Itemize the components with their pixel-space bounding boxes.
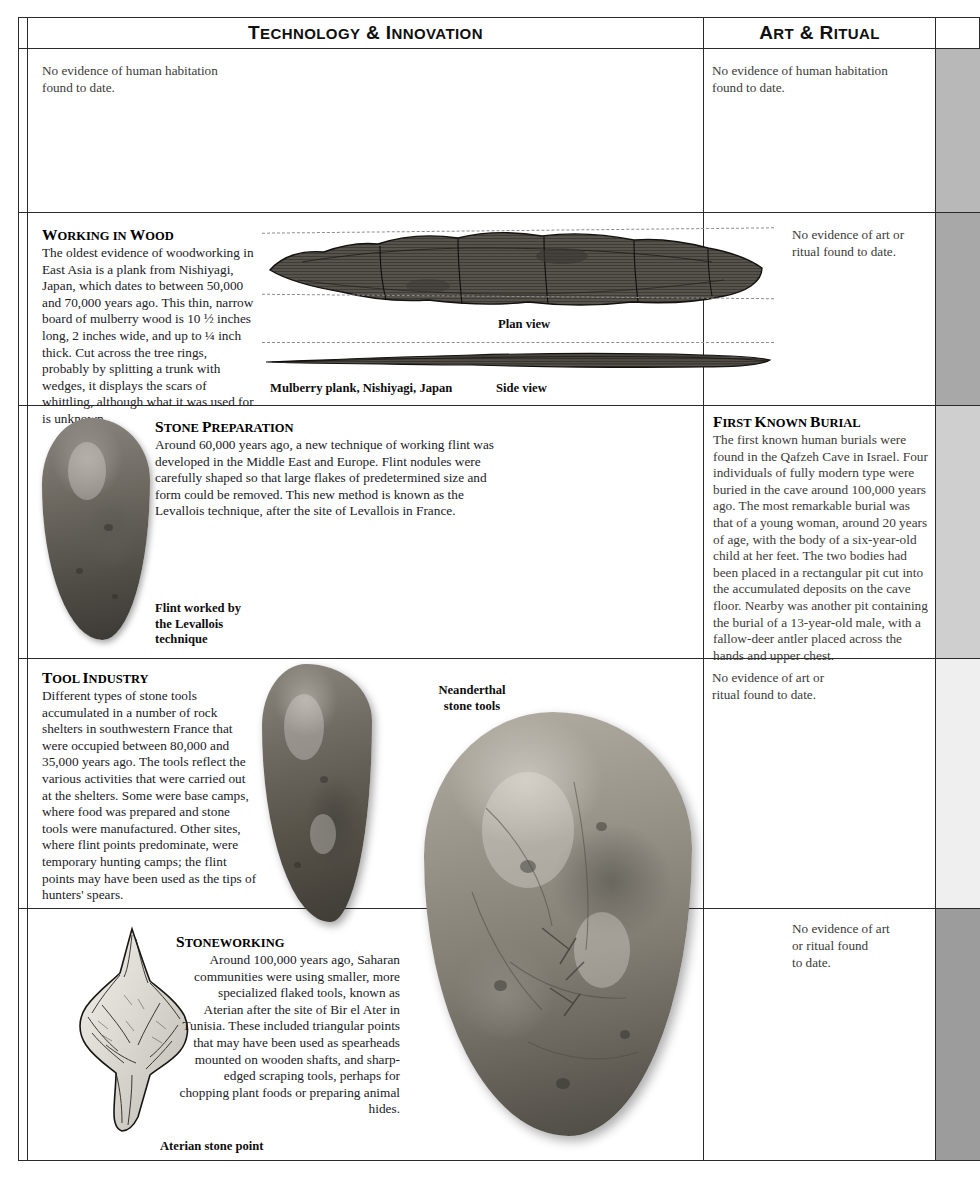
row4-heading: TOOL INDUSTRY — [42, 669, 257, 687]
grid-hline-bottom — [18, 1160, 980, 1161]
plan-view-label: Plan view — [498, 317, 550, 332]
row3-art-heading-rest: IRST — [722, 416, 754, 430]
grid-hline-header-bot — [18, 48, 980, 49]
header-art-lead2: R — [820, 22, 834, 43]
grid-vline-col-split — [703, 17, 704, 1160]
plank-plan-illustration — [262, 226, 774, 316]
row5-technology-text: STONEWORKING Around 100,000 years ago, S… — [176, 933, 400, 1118]
row3-art-heading: FIRST KNOWN BURIAL — [713, 413, 929, 431]
row5-body: Around 100,000 years ago, Saharan commun… — [176, 952, 400, 1118]
header-tech-rest2: NNOVATION — [392, 25, 483, 42]
column-header-technology: TECHNOLOGY & INNOVATION — [28, 17, 703, 48]
row3-art-heading-rest2: NOWN — [767, 416, 810, 430]
row4-heading-cap: T — [42, 669, 52, 686]
plank-side-illustration — [262, 340, 774, 374]
mulberry-plank-plan-view — [262, 226, 774, 316]
row3-art-heading-cap2: K — [755, 413, 767, 430]
header-tech-rest: ECHNOLOGY — [260, 25, 360, 42]
row5-heading-cap: S — [176, 933, 185, 950]
row5-heading: STONEWORKING — [176, 933, 400, 951]
row5-art-note: No evidence of art or ritual found to da… — [792, 920, 972, 971]
neanderthal-tools-caption: Neanderthal stone tools — [412, 683, 532, 714]
neanderthal-handaxe-photo — [424, 712, 692, 1136]
header-tech-lead: T — [248, 22, 260, 43]
row2-body: The oldest evidence of woodworking in Ea… — [42, 245, 257, 428]
grid-hline-top — [18, 17, 980, 18]
row1-art-note: No evidence of human habitation found to… — [712, 62, 927, 96]
mulberry-plank-side-view — [262, 340, 774, 374]
swatch-row-4 — [936, 659, 980, 908]
row2-technology-text: WORKING IN WOOD The oldest evidence of w… — [42, 226, 257, 428]
flint-levallois-caption: Flint worked by the Levallois technique — [155, 601, 241, 648]
row3-heading-cap2: P — [202, 418, 211, 435]
header-art-rest2: ITUAL — [834, 25, 880, 42]
side-view-label: Side view — [496, 381, 547, 396]
handaxe-flake-scars — [424, 712, 692, 1136]
row3-heading: STONE PREPARATION — [155, 418, 495, 436]
swatch-row-1 — [936, 49, 980, 212]
row3-art-text: FIRST KNOWN BURIAL The first known human… — [713, 413, 929, 664]
top-edge-artifact-text — [772, 2, 775, 11]
row3-heading-rest2: REPARATION — [211, 421, 293, 435]
header-art-rest: RT — [773, 25, 794, 42]
row2-heading-rest: ORKING IN — [58, 229, 130, 243]
row1-technology-note: No evidence of human habitation found to… — [42, 62, 342, 96]
mulberry-plank-caption: Mulberry plank, Nishiyagi, Japan — [270, 381, 452, 397]
grid-vline-content-left — [27, 17, 28, 1160]
swatch-row-3 — [936, 406, 980, 658]
flint-levallois-photo — [42, 418, 150, 640]
reference-page: TECHNOLOGY & INNOVATION ART & RITUAL No … — [0, 0, 980, 1180]
column-header-art: ART & RITUAL — [704, 17, 935, 48]
row5-heading-rest: TONEWORKING — [185, 936, 285, 950]
row3-art-body: The first known human burials were found… — [713, 432, 929, 664]
row4-heading-rest2: NDUSTRY — [89, 672, 149, 686]
row2-heading-cap2: W — [130, 226, 146, 243]
neanderthal-tool-dark-photo — [262, 664, 372, 922]
row2-art-note: No evidence of art or ritual found to da… — [792, 226, 980, 260]
row2-heading-cap: W — [42, 226, 58, 243]
row4-body: Different types of stone tools accumulat… — [42, 688, 257, 904]
header-art-amp: & — [794, 22, 819, 43]
grid-vline-outer-left — [18, 17, 19, 1160]
row2-heading: WORKING IN WOOD — [42, 226, 257, 244]
header-tech-amp: & — [360, 22, 385, 43]
row4-art-note: No evidence of art or ritual found to da… — [712, 669, 912, 703]
header-art-lead: A — [759, 22, 773, 43]
row3-art-heading-cap3: B — [810, 413, 820, 430]
row3-body: Around 60,000 years ago, a new technique… — [155, 437, 495, 520]
row3-art-heading-rest3: URIAL — [820, 416, 860, 430]
row3-technology-text: STONE PREPARATION Around 60,000 years ag… — [155, 418, 495, 520]
row4-technology-text: TOOL INDUSTRY Different types of stone t… — [42, 669, 257, 904]
grid-hline-row1-bot — [18, 212, 980, 213]
row4-heading-rest: OOL — [52, 672, 82, 686]
row2-heading-rest2: OOD — [145, 229, 173, 243]
row3-heading-rest: TONE — [164, 421, 202, 435]
row3-heading-cap: S — [155, 418, 164, 435]
aterian-point-caption: Aterian stone point — [160, 1139, 264, 1155]
